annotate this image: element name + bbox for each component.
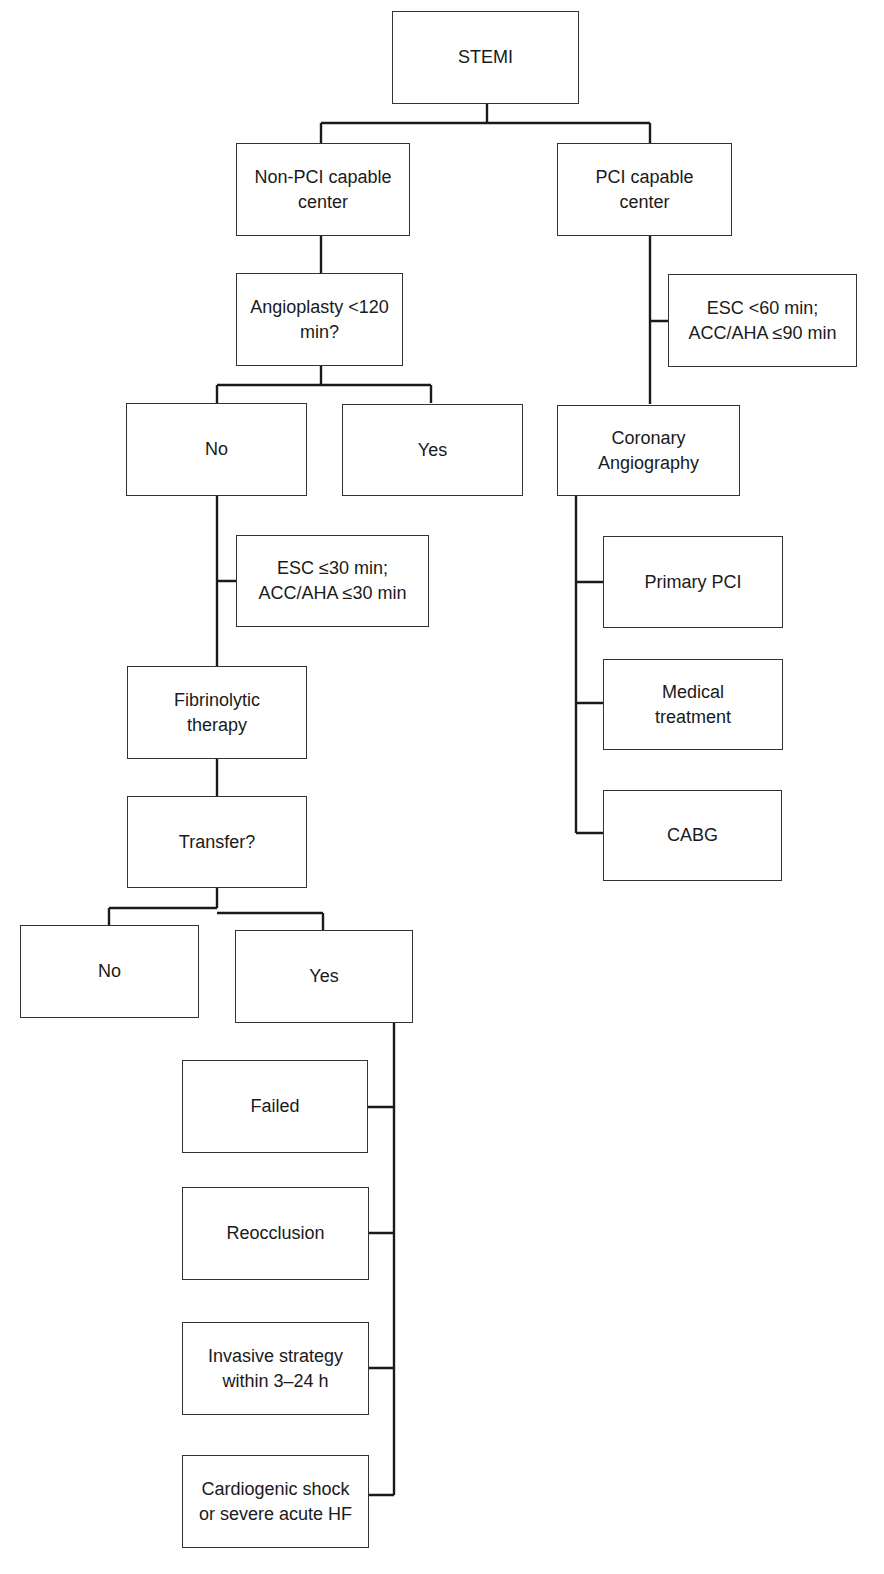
- non-pci-center-label: Non-PCI capable center: [254, 165, 391, 215]
- cardiogenic-shock-node: Cardiogenic shock or severe acute HF: [182, 1455, 369, 1548]
- angioplasty-question-label: Angioplasty <120 min?: [250, 295, 389, 345]
- failed-node: Failed: [182, 1060, 368, 1153]
- angioplasty-no-label: No: [205, 437, 228, 462]
- fibrinolytic-therapy-label: Fibrinolytic therapy: [174, 688, 260, 738]
- coronary-angiography-label: Coronary Angiography: [598, 426, 699, 476]
- cabg-node: CABG: [603, 790, 782, 881]
- stemi-label: STEMI: [458, 45, 513, 70]
- invasive-strategy-node: Invasive strategy within 3–24 h: [182, 1322, 369, 1415]
- primary-pci-label: Primary PCI: [644, 570, 741, 595]
- fibrinolysis-timing-node: ESC ≤30 min; ACC/AHA ≤30 min: [236, 535, 429, 627]
- pci-timing-node: ESC <60 min; ACC/AHA ≤90 min: [668, 274, 857, 367]
- pci-center-node: PCI capable center: [557, 143, 732, 236]
- pci-center-label: PCI capable center: [595, 165, 693, 215]
- fibrinolytic-therapy-node: Fibrinolytic therapy: [127, 666, 307, 759]
- medical-treatment-label: Medical treatment: [655, 680, 731, 730]
- stemi-flowchart: STEMI Non-PCI capable center PCI capable…: [0, 0, 884, 1574]
- angioplasty-yes-node: Yes: [342, 404, 523, 496]
- non-pci-center-node: Non-PCI capable center: [236, 143, 410, 236]
- medical-treatment-node: Medical treatment: [603, 659, 783, 750]
- invasive-strategy-label: Invasive strategy within 3–24 h: [208, 1344, 343, 1394]
- connector-lines: [0, 0, 884, 1574]
- transfer-question-label: Transfer?: [179, 830, 255, 855]
- coronary-angiography-node: Coronary Angiography: [557, 405, 740, 496]
- transfer-yes-label: Yes: [309, 964, 338, 989]
- reocclusion-node: Reocclusion: [182, 1187, 369, 1280]
- cardiogenic-shock-label: Cardiogenic shock or severe acute HF: [199, 1477, 352, 1527]
- stemi-node: STEMI: [392, 11, 579, 104]
- pci-timing-label: ESC <60 min; ACC/AHA ≤90 min: [689, 296, 837, 346]
- transfer-no-node: No: [20, 925, 199, 1018]
- cabg-label: CABG: [667, 823, 718, 848]
- angioplasty-yes-label: Yes: [418, 438, 447, 463]
- reocclusion-label: Reocclusion: [226, 1221, 324, 1246]
- transfer-no-label: No: [98, 959, 121, 984]
- angioplasty-question-node: Angioplasty <120 min?: [236, 273, 403, 366]
- angioplasty-no-node: No: [126, 403, 307, 496]
- primary-pci-node: Primary PCI: [603, 536, 783, 628]
- fibrinolysis-timing-label: ESC ≤30 min; ACC/AHA ≤30 min: [259, 556, 407, 606]
- failed-label: Failed: [250, 1094, 299, 1119]
- transfer-question-node: Transfer?: [127, 796, 307, 888]
- transfer-yes-node: Yes: [235, 930, 413, 1023]
